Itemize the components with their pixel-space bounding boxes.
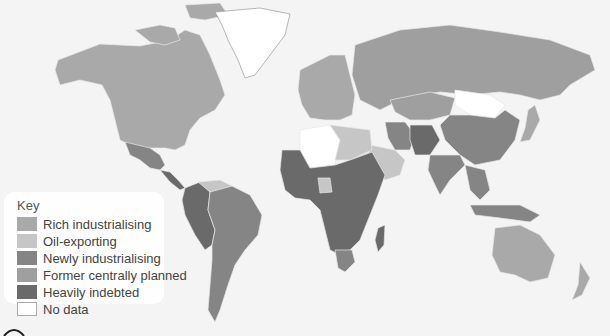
region-new-zealand bbox=[572, 262, 590, 300]
region-brazil-argentina bbox=[208, 186, 262, 322]
region-western-europe bbox=[298, 55, 355, 120]
region-mongolia bbox=[455, 90, 505, 118]
legend-label: No data bbox=[43, 302, 89, 317]
region-nigeria bbox=[318, 178, 332, 193]
legend-swatch bbox=[17, 234, 37, 248]
region-australia bbox=[492, 225, 555, 282]
legend-item-rich-industrialising: Rich industrialising bbox=[17, 216, 151, 232]
region-sub-saharan-africa bbox=[280, 150, 385, 255]
region-japan bbox=[520, 105, 540, 142]
region-southeast-asia bbox=[465, 165, 540, 222]
corner-chevron-icon bbox=[2, 322, 26, 336]
legend-label: Oil-exporting bbox=[43, 234, 117, 249]
region-greenland bbox=[215, 8, 290, 78]
legend-item-former-centrally-planned: Former centrally planned bbox=[17, 267, 187, 283]
legend-swatch bbox=[17, 302, 37, 316]
region-india bbox=[428, 155, 465, 195]
legend-title: Key bbox=[17, 198, 39, 213]
legend-swatch bbox=[17, 217, 37, 231]
legend-swatch bbox=[17, 268, 37, 282]
region-north-america bbox=[55, 30, 225, 150]
region-south-africa bbox=[335, 250, 355, 272]
legend-item-heavily-indebted: Heavily indebted bbox=[17, 284, 139, 300]
legend-label: Former centrally planned bbox=[43, 268, 187, 283]
legend-swatch bbox=[17, 251, 37, 265]
legend-item-no-data: No data bbox=[17, 301, 89, 317]
region-afghanistan-pakistan bbox=[410, 125, 440, 155]
legend-label: Heavily indebted bbox=[43, 285, 139, 300]
region-madagascar bbox=[375, 225, 385, 252]
legend-swatch bbox=[17, 285, 37, 299]
legend-item-oil-exporting: Oil-exporting bbox=[17, 233, 117, 249]
map-legend: Key Rich industrialising Oil-exporting N… bbox=[4, 192, 164, 304]
region-central-america bbox=[160, 170, 185, 190]
legend-label: Rich industrialising bbox=[43, 217, 151, 232]
legend-item-newly-industrialising: Newly industrialising bbox=[17, 250, 161, 266]
legend-label: Newly industrialising bbox=[43, 251, 161, 266]
